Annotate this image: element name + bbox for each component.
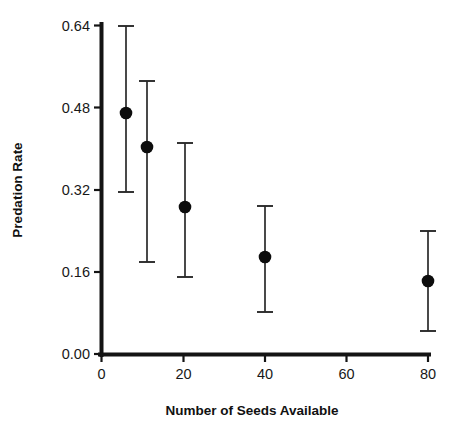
data-point-marker — [179, 201, 192, 214]
chart-background — [0, 0, 454, 432]
data-point-marker — [259, 251, 272, 264]
x-axis-title: Number of Seeds Available — [165, 403, 339, 418]
x-tick-label-1: 20 — [175, 366, 191, 382]
x-tick-label-3: 60 — [338, 366, 354, 382]
chart-figure: 0.64 0.48 0.32 0.16 0.00 0 20 40 60 80 — [0, 0, 454, 432]
predation-rate-scatter-chart: 0.64 0.48 0.32 0.16 0.00 0 20 40 60 80 — [0, 0, 454, 432]
x-tick-label-4: 80 — [420, 366, 436, 382]
y-axis-title: Predation Rate — [10, 142, 25, 238]
y-tick-label-4: 0.00 — [62, 346, 90, 362]
y-tick-label-2: 0.32 — [62, 182, 90, 198]
data-point-marker — [141, 141, 154, 154]
x-tick-label-0: 0 — [97, 366, 105, 382]
data-point-marker — [422, 275, 435, 288]
y-tick-label-0: 0.64 — [62, 18, 90, 34]
data-point-marker — [120, 107, 133, 120]
x-tick-label-2: 40 — [257, 366, 273, 382]
y-tick-label-1: 0.48 — [62, 100, 90, 116]
y-tick-label-3: 0.16 — [62, 264, 90, 280]
